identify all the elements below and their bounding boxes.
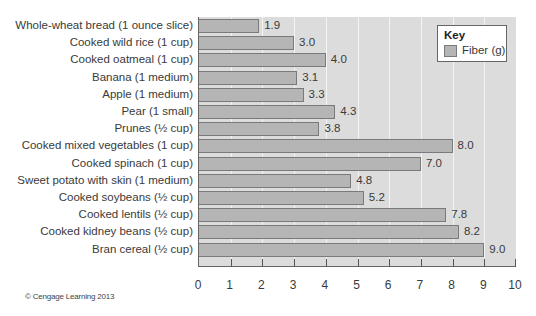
category-label: Cooked wild rice (1 cup): [70, 36, 193, 49]
bar-value-label: 3.3: [309, 88, 325, 101]
x-axis-tick: [453, 259, 454, 267]
category-label: Cooked spinach (1 cup): [72, 157, 193, 170]
x-tick-label: 0: [195, 278, 202, 292]
legend-label-fiber: Fiber (g): [462, 44, 505, 56]
x-axis-tick: [389, 259, 390, 267]
bar: [199, 139, 453, 153]
bar: [199, 225, 459, 239]
x-tick-label: 6: [385, 278, 392, 292]
x-axis-tick: [358, 259, 359, 267]
bar: [199, 157, 421, 171]
bar: [199, 122, 319, 136]
bar-value-label: 9.0: [489, 243, 505, 256]
bar-value-label: 8.0: [458, 139, 474, 152]
category-label: Cooked soybeans (½ cup): [59, 191, 193, 204]
x-tick-label: 5: [353, 278, 360, 292]
bar: [199, 19, 259, 33]
category-label: Banana (1 medium): [92, 71, 193, 84]
category-label: Bran cereal (½ cup): [92, 243, 193, 256]
bar-value-label: 4.0: [331, 53, 347, 66]
category-label: Sweet potato with skin (1 medium): [17, 174, 193, 187]
bar: [199, 105, 335, 119]
copyright-credit: © Cengage Learning 2013: [25, 292, 114, 301]
x-tick-label: 1: [226, 278, 233, 292]
bar-value-label: 5.2: [369, 191, 385, 204]
x-axis-tick: [294, 259, 295, 267]
legend: Key Fiber (g): [437, 25, 507, 62]
x-axis-end-tick: [515, 259, 516, 267]
x-axis-tick: [231, 259, 232, 267]
category-label: Cooked mixed vegetables (1 cup): [22, 139, 193, 152]
bar-value-label: 7.0: [426, 157, 442, 170]
bar-value-label: 3.0: [299, 36, 315, 49]
legend-swatch-fiber: [444, 45, 457, 57]
bar: [199, 191, 364, 205]
bar-value-label: 1.9: [264, 19, 280, 32]
x-tick-label: 10: [508, 278, 521, 292]
bar: [199, 208, 446, 222]
x-axis-tick: [421, 259, 422, 267]
category-label: Whole-wheat bread (1 ounce slice): [15, 19, 193, 32]
x-tick-label: 2: [258, 278, 265, 292]
x-axis-tick: [484, 259, 485, 267]
category-label: Cooked kidney beans (½ cup): [40, 225, 193, 238]
bar-value-label: 7.8: [451, 208, 467, 221]
category-label: Pear (1 small): [121, 105, 193, 118]
category-label: Cooked lentils (½ cup): [79, 208, 193, 221]
category-label: Apple (1 medium): [102, 88, 193, 101]
x-tick-label: 3: [290, 278, 297, 292]
legend-title: Key: [444, 29, 465, 41]
bar: [199, 174, 351, 188]
x-tick-label: 7: [417, 278, 424, 292]
x-tick-label: 9: [480, 278, 487, 292]
category-label: Cooked oatmeal (1 cup): [70, 53, 193, 66]
category-label: Prunes (½ cup): [114, 122, 193, 135]
bar: [199, 53, 326, 67]
x-tick-label: 8: [448, 278, 455, 292]
x-axis-tick: [326, 259, 327, 267]
x-tick-label: 4: [321, 278, 328, 292]
bar-value-label: 3.1: [302, 71, 318, 84]
bar: [199, 88, 304, 102]
bar-value-label: 4.3: [340, 105, 356, 118]
bar-value-label: 3.8: [324, 122, 340, 135]
bar: [199, 71, 297, 85]
bar-value-label: 8.2: [464, 225, 480, 238]
x-axis-tick: [262, 259, 263, 267]
bar: [199, 36, 294, 50]
fiber-bar-chart: Whole-wheat bread (1 ounce slice)Cooked …: [0, 0, 536, 316]
bar-value-label: 4.8: [356, 174, 372, 187]
bar: [199, 243, 484, 257]
